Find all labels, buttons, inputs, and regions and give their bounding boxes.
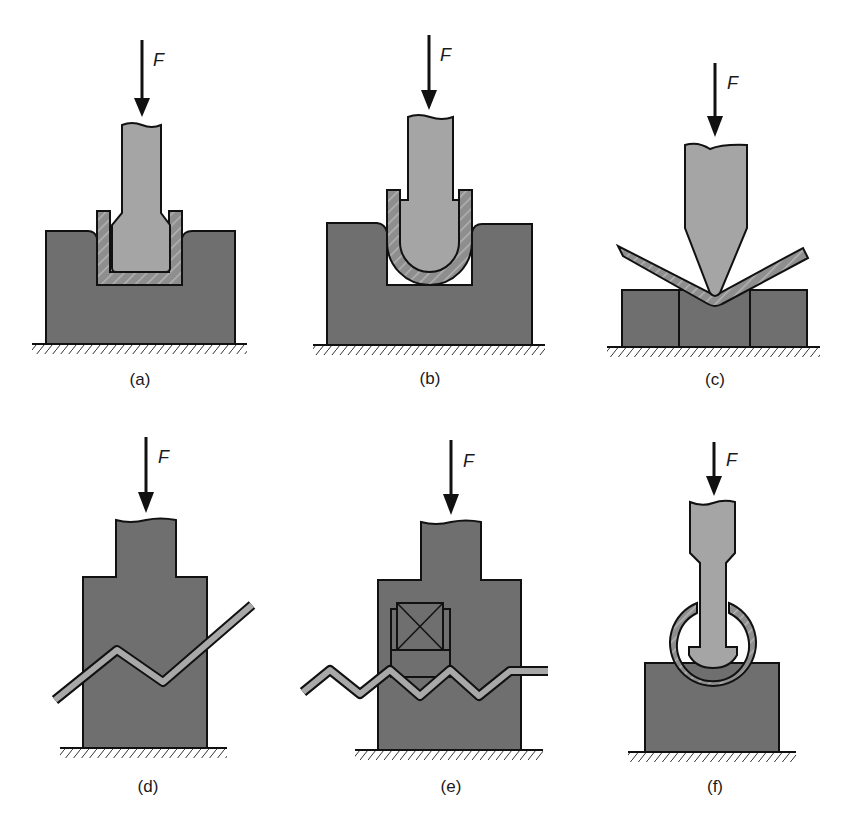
die-block-right bbox=[750, 290, 807, 347]
panel-label-f: (f) bbox=[707, 777, 723, 796]
punch bbox=[689, 501, 737, 668]
force-label: F bbox=[726, 450, 738, 470]
ground-hatch bbox=[32, 345, 247, 354]
panel-label-a: (a) bbox=[130, 370, 151, 389]
force-label: F bbox=[463, 451, 475, 471]
panel-f: F (f) bbox=[628, 442, 796, 796]
force-arrow-icon bbox=[421, 35, 437, 110]
panel-label-d: (d) bbox=[138, 777, 159, 796]
bending-operations-figure: F (a) F (b) F bbox=[0, 0, 849, 826]
force-label: F bbox=[727, 73, 739, 93]
panel-a: F (a) bbox=[32, 40, 247, 389]
force-arrow-icon bbox=[706, 442, 722, 496]
force-label: F bbox=[158, 447, 170, 467]
force-arrow-icon bbox=[443, 440, 459, 515]
panel-d: F (d) bbox=[55, 437, 252, 796]
pad-side-right bbox=[443, 609, 450, 650]
die-tool bbox=[83, 519, 207, 749]
ground-hatch bbox=[607, 348, 820, 357]
force-arrow-icon bbox=[138, 437, 154, 513]
panel-label-b: (b) bbox=[420, 369, 441, 388]
die bbox=[645, 663, 779, 752]
spring-box-icon bbox=[397, 603, 443, 650]
punch bbox=[685, 144, 747, 296]
panel-label-e: (e) bbox=[441, 777, 462, 796]
panel-b: F (b) bbox=[313, 35, 545, 388]
panel-label-c: (c) bbox=[705, 370, 725, 389]
force-label: F bbox=[440, 45, 452, 65]
ground-hatch bbox=[628, 753, 796, 762]
ground-hatch bbox=[355, 751, 543, 760]
force-arrow-icon bbox=[134, 40, 150, 117]
die-block-left bbox=[622, 290, 679, 347]
ground-hatch bbox=[60, 749, 227, 758]
force-arrow-icon bbox=[707, 63, 723, 137]
force-label: F bbox=[153, 50, 165, 70]
panel-c: F (c) bbox=[607, 63, 820, 389]
ground-hatch bbox=[313, 346, 545, 355]
panel-e: F (e) bbox=[303, 440, 548, 796]
punch bbox=[112, 123, 170, 272]
punch bbox=[400, 115, 459, 272]
